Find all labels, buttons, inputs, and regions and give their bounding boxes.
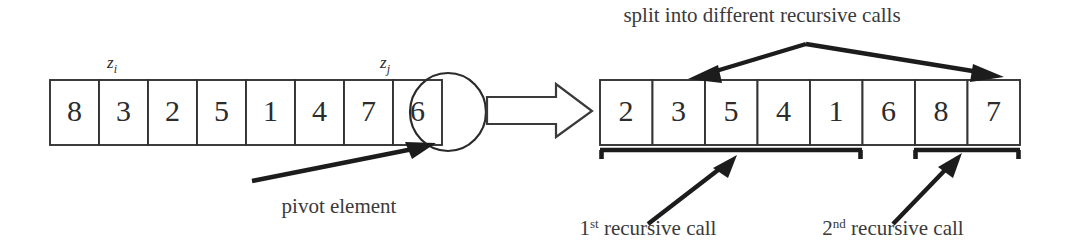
partitioned-array: 2 3 5 4 1 6 8 7 bbox=[600, 80, 1020, 145]
split-arrow-left-shaft bbox=[706, 44, 806, 74]
first-recursive-call-caption: 1st recursive call bbox=[580, 216, 717, 240]
array-cell-value: 2 bbox=[619, 94, 634, 127]
index-label-zj: zj bbox=[379, 53, 391, 76]
first-call-pointer bbox=[648, 155, 737, 224]
index-label-zi-subscript: i bbox=[114, 62, 117, 76]
array-cell-value: 7 bbox=[986, 94, 1001, 127]
pivot-pointer-arrow-head bbox=[405, 142, 436, 159]
group-bracket-second bbox=[914, 150, 1020, 159]
array-cell-value: 8 bbox=[934, 94, 949, 127]
array-cell-value: 5 bbox=[214, 94, 229, 127]
array-cell-value: 8 bbox=[67, 94, 82, 127]
quicksort-partition-figure: split into different recursive calls 8 3… bbox=[0, 0, 1068, 247]
implies-arrow-icon bbox=[487, 84, 592, 137]
array-cell-value: 4 bbox=[312, 94, 327, 127]
split-caption: split into different recursive calls bbox=[623, 3, 900, 27]
array-cell-value: 5 bbox=[724, 94, 739, 127]
double-right-arrow-shape bbox=[487, 84, 592, 137]
array-cell-value: 3 bbox=[116, 94, 131, 127]
first-call-caption-text: recursive call bbox=[604, 216, 717, 240]
input-array: 8 3 2 5 1 4 7 6 zi zj pivot element bbox=[50, 53, 486, 218]
second-call-ordinal-number: 2 bbox=[822, 216, 833, 240]
array-cell-value: 1 bbox=[829, 94, 844, 127]
array-cell-value: 6 bbox=[881, 94, 896, 127]
array-cell-value: 1 bbox=[263, 94, 278, 127]
group-bracket-first bbox=[600, 150, 862, 159]
array-cell-value: 4 bbox=[776, 94, 791, 127]
array-cell-value: 7 bbox=[361, 94, 376, 127]
second-recursive-call-caption: 2nd recursive call bbox=[822, 216, 963, 240]
split-arrows bbox=[688, 44, 1004, 83]
first-call-ordinal-number: 1 bbox=[580, 216, 591, 240]
second-call-caption-text: recursive call bbox=[851, 216, 964, 240]
figure-canvas: split into different recursive calls 8 3… bbox=[0, 0, 1068, 247]
split-arrow-right-shaft bbox=[806, 44, 985, 73]
index-label-zi: zi bbox=[106, 53, 117, 76]
array-cell-value: 2 bbox=[165, 94, 180, 127]
second-call-pointer bbox=[893, 153, 962, 224]
pivot-element-caption: pivot element bbox=[282, 194, 397, 218]
second-call-ordinal-suffix: nd bbox=[833, 216, 847, 231]
first-call-arrow-head bbox=[713, 155, 737, 178]
array-cell-value: 3 bbox=[671, 94, 686, 127]
pivot-pointer-arrow-shaft bbox=[252, 148, 418, 181]
